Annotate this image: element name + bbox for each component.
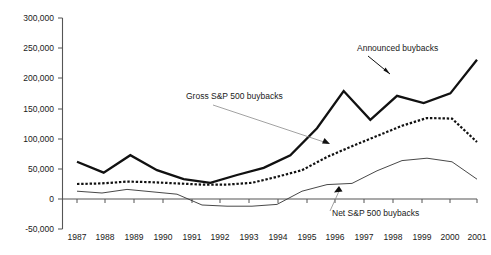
arrowhead-announced-icon [384, 68, 391, 75]
y-tick-label-100000: 100,000 [23, 134, 54, 144]
y-tick-label-50000: 50,000 [28, 164, 54, 174]
y-tick-label-neg50000: -50,000 [25, 224, 54, 234]
x-tick-label-1990: 1990 [154, 232, 173, 242]
chart-canvas: 300,000 250,000 200,000 150,000 100,000 … [0, 0, 491, 255]
annotation-label-announced-buybacks: Announced buybacks [357, 43, 438, 53]
series-lines [77, 60, 477, 206]
chart-figure: 300,000 250,000 200,000 150,000 100,000 … [0, 0, 491, 255]
y-tick-label-200000: 200,000 [23, 73, 54, 83]
annotation-label-net-buybacks: Net S&P 500 buybacks [332, 208, 419, 218]
x-tick-label-1993: 1993 [240, 232, 259, 242]
annotation-label-gross-buybacks: Gross S&P 500 buybacks [186, 91, 283, 101]
y-tick-label-300000: 300,000 [23, 13, 54, 23]
y-tick-label-0: 0 [49, 194, 54, 204]
x-tick-label-1992: 1992 [211, 232, 230, 242]
x-tick-label-1991: 1991 [183, 232, 202, 242]
annotation-leader-gross [213, 105, 327, 143]
x-tick-label-1988: 1988 [96, 232, 115, 242]
arrowhead-net-icon [334, 186, 343, 193]
series-line-gross-sp500-buybacks [77, 118, 477, 185]
x-tick-label-2001: 2001 [468, 232, 487, 242]
x-tick-label-1995: 1995 [298, 232, 317, 242]
x-tick-label-1998: 1998 [384, 232, 403, 242]
y-tick-label-150000: 150,000 [23, 104, 54, 114]
y-axis: 300,000 250,000 200,000 150,000 100,000 … [23, 13, 62, 234]
x-tick-label-1997: 1997 [355, 232, 374, 242]
annotation-net-buybacks: Net S&P 500 buybacks [330, 186, 419, 218]
x-tick-label-2000: 2000 [441, 232, 460, 242]
x-tick-label-1996: 1996 [326, 232, 345, 242]
arrowhead-gross-icon [322, 138, 330, 144]
annotation-announced-buybacks: Announced buybacks [357, 43, 438, 74]
x-tick-label-1989: 1989 [125, 232, 144, 242]
x-tick-label-1987: 1987 [68, 232, 87, 242]
x-tick-label-1994: 1994 [269, 232, 288, 242]
x-axis: 1987 1988 1989 1990 1991 1992 1993 1994 … [63, 199, 487, 242]
series-line-announced-buybacks [77, 60, 477, 183]
y-tick-label-250000: 250,000 [23, 43, 54, 53]
x-tick-label-1999: 1999 [413, 232, 432, 242]
